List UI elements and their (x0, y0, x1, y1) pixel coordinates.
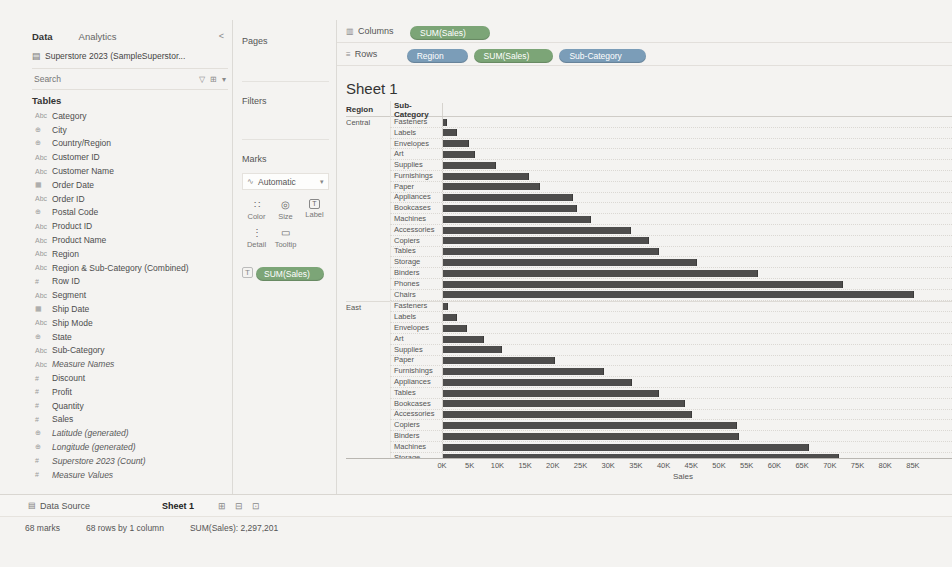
mark-type-dropdown[interactable]: ∿ Automatic ▾ (242, 173, 329, 190)
field-item[interactable]: AbcProduct ID (32, 219, 228, 233)
pill-region[interactable]: Region (407, 49, 468, 63)
sales-bar[interactable] (443, 216, 591, 223)
subcategory-label[interactable]: Storage (390, 257, 442, 267)
subcategory-label[interactable]: Accessories (390, 225, 442, 235)
new-worksheet-icon[interactable]: ⊞ (218, 501, 226, 511)
field-item[interactable]: AbcMeasure Names (32, 357, 228, 371)
sales-bar[interactable] (443, 422, 737, 429)
field-item[interactable]: ⊕Latitude (generated) (32, 426, 228, 440)
subcategory-label[interactable]: Binders (390, 431, 442, 441)
detail-button[interactable]: ⋮Detail (242, 227, 271, 249)
subcategory-label[interactable]: Machines (390, 442, 442, 452)
pill-sum-sales-[interactable]: SUM(Sales) (256, 267, 324, 281)
tab-data-source[interactable]: ▤ Data Source (28, 501, 90, 511)
subcategory-label[interactable]: Copiers (390, 420, 442, 430)
field-item[interactable]: ⊕Country/Region (32, 137, 228, 151)
subcategory-label[interactable]: Binders (390, 268, 442, 278)
new-story-icon[interactable]: ⊡ (252, 501, 260, 511)
sales-bar[interactable] (443, 205, 577, 212)
subcategory-label[interactable]: Accessories (390, 409, 442, 419)
subcategory-label[interactable]: Fasteners (390, 117, 442, 127)
sales-bar[interactable] (443, 325, 467, 332)
pill-sum-sales-[interactable]: SUM(Sales) (410, 26, 490, 40)
subcategory-label[interactable]: Copiers (390, 236, 442, 246)
field-item[interactable]: #Discount (32, 371, 228, 385)
menu-caret-icon[interactable]: ▾ (222, 75, 226, 84)
search-input[interactable] (34, 74, 199, 84)
field-item[interactable]: #Superstore 2023 (Count) (32, 454, 228, 468)
pill-sum-sales-[interactable]: SUM(Sales) (474, 49, 554, 63)
field-item[interactable]: #Profit (32, 385, 228, 399)
sales-bar[interactable] (443, 259, 697, 266)
sales-bar[interactable] (443, 173, 529, 180)
subcategory-label[interactable]: Art (390, 334, 442, 344)
sales-bar[interactable] (443, 454, 839, 458)
sales-bar[interactable] (443, 444, 809, 451)
columns-shelf[interactable]: ▥ Columns SUM(Sales) (337, 20, 952, 43)
field-item[interactable]: #Sales (32, 413, 228, 427)
subcategory-label[interactable]: Furnishings (390, 366, 442, 376)
sheet-title[interactable]: Sheet 1 (346, 80, 952, 97)
field-item[interactable]: AbcRegion & Sub-Category (Combined) (32, 261, 228, 275)
sales-bar[interactable] (443, 281, 843, 288)
subcategory-label[interactable]: Appliances (390, 377, 442, 387)
pages-shelf[interactable]: Pages (242, 26, 329, 82)
color-button[interactable]: ∷Color (242, 199, 271, 221)
pill-sub-category[interactable]: Sub-Category (559, 49, 645, 63)
field-item[interactable]: ⊕Postal Code (32, 206, 228, 220)
subcategory-column-header[interactable]: Sub-Category (390, 101, 442, 119)
tab-data[interactable]: Data (32, 31, 53, 42)
collapse-pane-icon[interactable]: < (219, 31, 228, 41)
subcategory-label[interactable]: Phones (390, 279, 442, 289)
subcategory-label[interactable]: Supplies (390, 345, 442, 355)
datasource-row[interactable]: ▤ Superstore 2023 (SampleSuperstor... (32, 46, 228, 66)
view-options-icon[interactable]: ⊞ (210, 75, 217, 84)
subcategory-label[interactable]: Paper (390, 355, 442, 365)
field-item[interactable]: AbcSegment (32, 288, 228, 302)
tooltip-button[interactable]: ▭Tooltip (271, 227, 300, 249)
filter-icon[interactable]: ▽ (199, 75, 205, 84)
sales-bar[interactable] (443, 336, 484, 343)
rows-shelf[interactable]: ≡ Rows RegionSUM(Sales)Sub-Category (337, 43, 952, 66)
field-item[interactable]: AbcProduct Name (32, 233, 228, 247)
subcategory-label[interactable]: Labels (390, 312, 442, 322)
field-item[interactable]: AbcSub-Category (32, 344, 228, 358)
subcategory-label[interactable]: Envelopes (390, 139, 442, 149)
sales-bar[interactable] (443, 303, 448, 310)
subcategory-label[interactable]: Chairs (390, 290, 442, 300)
sales-bar[interactable] (443, 291, 914, 298)
tab-sheet-1[interactable]: Sheet 1 (162, 501, 194, 511)
region-label[interactable]: Central (346, 117, 390, 301)
sales-bar[interactable] (443, 314, 457, 321)
sales-bar[interactable] (443, 390, 659, 397)
subcategory-label[interactable]: Bookcases (390, 203, 442, 213)
sales-bar[interactable] (443, 140, 469, 147)
sales-bar[interactable] (443, 151, 475, 158)
sales-bar[interactable] (443, 248, 659, 255)
sales-bar[interactable] (443, 368, 604, 375)
sales-bar[interactable] (443, 400, 685, 407)
subcategory-label[interactable]: Envelopes (390, 323, 442, 333)
filters-shelf[interactable]: Filters (242, 82, 329, 140)
sales-bar[interactable] (443, 162, 496, 169)
region-column-header[interactable]: Region (346, 105, 390, 114)
sales-bar[interactable] (443, 237, 649, 244)
sales-bar[interactable] (443, 227, 631, 234)
new-dashboard-icon[interactable]: ⊟ (235, 501, 243, 511)
subcategory-label[interactable]: Paper (390, 182, 442, 192)
subcategory-label[interactable]: Machines (390, 214, 442, 224)
size-button[interactable]: ◎Size (271, 199, 300, 221)
sales-bar[interactable] (443, 411, 692, 418)
sales-bar[interactable] (443, 379, 632, 386)
field-item[interactable]: AbcRegion (32, 247, 228, 261)
field-item[interactable]: #Quantity (32, 399, 228, 413)
sales-bar[interactable] (443, 183, 540, 190)
subcategory-label[interactable]: Tables (390, 246, 442, 256)
subcategory-label[interactable]: Labels (390, 128, 442, 138)
field-item[interactable]: AbcOrder ID (32, 192, 228, 206)
field-item[interactable]: AbcShip Mode (32, 316, 228, 330)
subcategory-label[interactable]: Fasteners (390, 301, 442, 311)
subcategory-label[interactable]: Tables (390, 388, 442, 398)
sales-bar[interactable] (443, 346, 502, 353)
subcategory-label[interactable]: Storage (390, 453, 442, 458)
